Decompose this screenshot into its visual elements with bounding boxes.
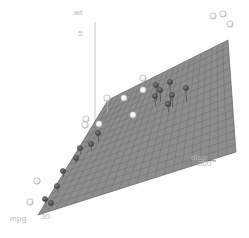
data-point-sphere (104, 95, 110, 101)
data-point-sphere (157, 87, 162, 92)
z-axis-tick-label: 5 (78, 29, 82, 38)
z-axis-label: wt (74, 8, 83, 17)
data-point-sphere (34, 178, 40, 184)
data-point-sphere (227, 21, 233, 27)
data-point-sphere (95, 130, 100, 135)
data-point-sphere (121, 95, 127, 101)
data-point-sphere (96, 121, 102, 127)
data-point-sphere (167, 79, 172, 84)
data-point-sphere (169, 92, 174, 97)
scatterplot3d-figure (0, 0, 249, 238)
data-point-sphere (82, 122, 88, 128)
data-point-sphere (48, 200, 53, 205)
data-point-sphere (130, 112, 136, 118)
data-point-sphere (83, 116, 89, 122)
data-point-sphere (88, 141, 93, 146)
plane-fill (38, 40, 236, 215)
plot-canvas: wt 5 mpg 30 disp 300 (0, 0, 249, 238)
data-point-sphere (153, 82, 158, 87)
data-point-sphere (77, 145, 82, 150)
data-point-sphere (60, 168, 65, 173)
data-point-sphere (220, 11, 226, 17)
regression-plane-surface (38, 40, 236, 215)
data-point-sphere (152, 93, 157, 98)
data-point-sphere (73, 155, 78, 160)
data-point-sphere (42, 196, 47, 201)
x-axis-tick-label: 30 (41, 212, 50, 221)
x-axis-label: mpg (10, 214, 26, 223)
data-point-sphere (140, 75, 146, 81)
data-point-sphere (210, 13, 216, 19)
data-point-sphere (165, 101, 170, 106)
y-axis-tick-label: 300 (198, 159, 211, 168)
data-point-sphere (27, 199, 33, 205)
data-point-sphere (140, 87, 146, 93)
data-point-sphere (54, 183, 59, 188)
data-point-sphere (183, 85, 188, 90)
